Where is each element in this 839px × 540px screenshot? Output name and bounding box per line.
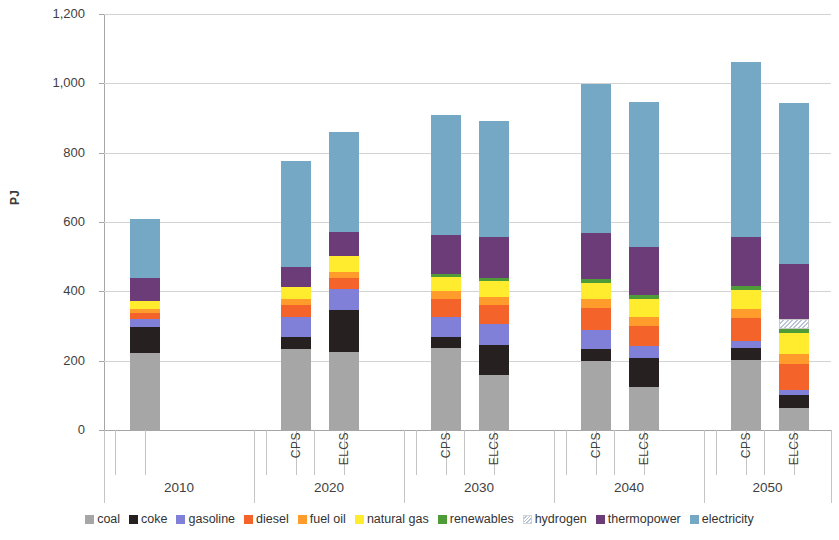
legend-item-renewables[interactable]: renewables [438,512,514,526]
bar-segment-coal[interactable] [779,408,809,430]
bar-segment-electricity[interactable] [431,115,461,235]
bar-segment-coal[interactable] [731,360,761,430]
stacked-bar[interactable] [130,219,160,430]
bar-segment-thermopower[interactable] [479,237,509,278]
bar-segment-gasoline[interactable] [431,317,461,337]
bar-segment-coal[interactable] [431,348,461,430]
bar-segment-fuel-oil[interactable] [629,317,659,326]
bar-segment-electricity[interactable] [281,161,311,266]
stacked-bar[interactable] [779,103,809,430]
bar-segment-fuel-oil[interactable] [281,299,311,306]
legend-item-electricity[interactable]: electricity [690,512,754,526]
bar-segment-electricity[interactable] [629,102,659,247]
bar-segment-coke[interactable] [281,337,311,348]
stacked-bar[interactable] [281,161,311,430]
stacked-bar[interactable] [329,132,359,430]
legend-item-coke[interactable]: coke [129,512,167,526]
x-axis-scenario-label: CPS [289,432,303,458]
bar-segment-renewables[interactable] [731,286,761,290]
bar-segment-coke[interactable] [130,327,160,353]
bar-segment-coke[interactable] [581,349,611,360]
bar-segment-coal[interactable] [281,349,311,430]
bar-segment-fuel-oil[interactable] [581,299,611,308]
bar-segment-renewables[interactable] [431,274,461,277]
bar-segment-coke[interactable] [779,395,809,407]
bar-segment-gasoline[interactable] [629,346,659,358]
bar-segment-gasoline[interactable] [281,317,311,337]
bar-segment-diesel[interactable] [731,318,761,341]
bar-segment-hydrogen[interactable] [779,319,809,329]
square-swatch-icon [355,515,364,524]
bar-segment-electricity[interactable] [479,121,509,237]
legend-item-hydrogen[interactable]: hydrogen [523,512,587,526]
bar-segment-coal[interactable] [130,353,160,430]
bar-segment-natural-gas[interactable] [731,290,761,308]
legend-item-thermopower[interactable]: thermopower [596,512,681,526]
bar-segment-thermopower[interactable] [629,247,659,295]
bar-segment-coke[interactable] [431,337,461,348]
stacked-bar[interactable] [629,102,659,430]
bar-segment-coke[interactable] [479,345,509,375]
bar-segment-renewables[interactable] [581,279,611,282]
stacked-bar[interactable] [431,115,461,430]
legend-item-gasoline[interactable]: gasoline [176,512,235,526]
bar-segment-fuel-oil[interactable] [329,272,359,278]
legend-item-coal[interactable]: coal [85,512,120,526]
bar-segment-electricity[interactable] [581,84,611,233]
bar-segment-thermopower[interactable] [731,237,761,287]
bar-segment-diesel[interactable] [281,305,311,317]
legend-item-fuel-oil[interactable]: fuel oil [298,512,346,526]
bar-segment-thermopower[interactable] [281,267,311,287]
bar-segment-gasoline[interactable] [479,324,509,345]
bar-segment-fuel-oil[interactable] [479,297,509,305]
bar-segment-electricity[interactable] [130,219,160,278]
bar-segment-gasoline[interactable] [130,319,160,327]
bar-segment-natural-gas[interactable] [431,277,461,291]
bar-segment-diesel[interactable] [629,326,659,346]
bar-segment-natural-gas[interactable] [629,299,659,317]
stacked-bar[interactable] [731,62,761,431]
bar-segment-diesel[interactable] [329,278,359,289]
stacked-bar[interactable] [581,84,611,430]
bar-segment-coal[interactable] [581,361,611,430]
bar-segment-diesel[interactable] [130,313,160,319]
bar-segment-renewables[interactable] [779,329,809,333]
bar-segment-thermopower[interactable] [581,233,611,279]
bar-segment-diesel[interactable] [431,299,461,317]
bar-segment-electricity[interactable] [779,103,809,264]
bar-segment-fuel-oil[interactable] [130,309,160,313]
bar-segment-fuel-oil[interactable] [779,354,809,364]
bar-segment-electricity[interactable] [329,132,359,233]
bar-segment-coal[interactable] [329,352,359,430]
bar-segment-coal[interactable] [479,375,509,430]
bar-segment-natural-gas[interactable] [130,301,160,309]
bar-segment-diesel[interactable] [479,305,509,324]
bar-segment-gasoline[interactable] [581,330,611,349]
legend-item-diesel[interactable]: diesel [244,512,289,526]
bar-segment-gasoline[interactable] [329,289,359,310]
bar-segment-natural-gas[interactable] [281,287,311,299]
bar-segment-coke[interactable] [329,310,359,352]
bar-segment-coal[interactable] [629,387,659,430]
bar-segment-fuel-oil[interactable] [431,291,461,299]
bar-segment-fuel-oil[interactable] [731,309,761,319]
stacked-bar[interactable] [479,121,509,430]
bar-segment-renewables[interactable] [629,295,659,298]
legend-item-natural-gas[interactable]: natural gas [355,512,429,526]
bar-segment-thermopower[interactable] [329,232,359,256]
bar-segment-gasoline[interactable] [779,390,809,396]
bar-segment-thermopower[interactable] [779,264,809,318]
bar-segment-thermopower[interactable] [431,235,461,274]
bar-segment-electricity[interactable] [731,62,761,237]
bar-segment-coke[interactable] [731,348,761,359]
bar-segment-natural-gas[interactable] [779,333,809,354]
bar-segment-natural-gas[interactable] [329,256,359,272]
bar-segment-gasoline[interactable] [731,341,761,348]
bar-segment-coke[interactable] [629,358,659,387]
bar-segment-thermopower[interactable] [130,278,160,301]
bar-segment-renewables[interactable] [479,278,509,280]
bar-segment-natural-gas[interactable] [479,281,509,297]
bar-segment-diesel[interactable] [581,308,611,330]
bar-segment-diesel[interactable] [779,364,809,390]
bar-segment-natural-gas[interactable] [581,283,611,299]
